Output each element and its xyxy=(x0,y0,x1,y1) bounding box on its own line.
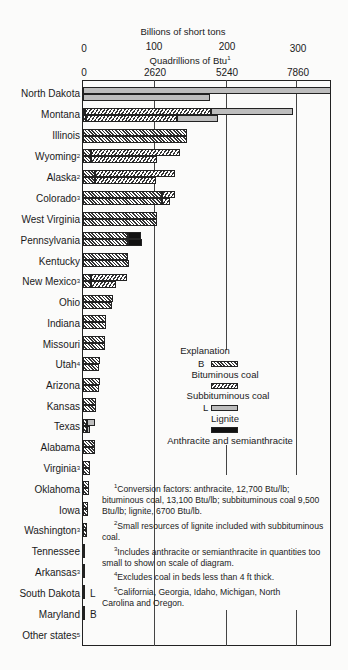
bar-bituminous-tons xyxy=(83,336,105,343)
bar-bituminous-btu xyxy=(83,239,128,246)
bar-bituminous-btu xyxy=(83,322,106,329)
bar-bituminous-tons xyxy=(83,523,87,530)
bar-bituminous-btu xyxy=(83,177,95,184)
bar-bituminous-btu xyxy=(83,281,91,288)
bar-subbituminous-tons xyxy=(91,149,180,156)
bar-subbituminous-btu xyxy=(86,115,178,122)
footnote-4: 4Excludes coal in beds less than 4 ft th… xyxy=(102,569,330,583)
bar-subbituminous-tons xyxy=(95,170,175,177)
state-label: Montana xyxy=(41,109,80,121)
state-label: Ohio xyxy=(59,297,80,309)
bar-subbituminous-btu xyxy=(162,198,170,205)
bar-lignite-btu xyxy=(87,426,91,433)
bottom-tick: 5240 xyxy=(216,67,238,78)
bar-bituminous-btu xyxy=(83,260,129,267)
legend-title: Explanation xyxy=(180,345,230,356)
bar-bituminous-btu xyxy=(83,343,105,350)
bar-bituminous-btu xyxy=(83,468,90,475)
legend-swatch-lignite xyxy=(211,405,238,411)
state-label: Texas xyxy=(54,421,80,433)
bottom-axis-title: Quadrillions of Btu1 xyxy=(150,55,231,66)
bar-subbituminous-tons xyxy=(85,108,211,115)
bar-lignite-tons xyxy=(87,419,95,426)
bar-bituminous-tons xyxy=(83,212,157,219)
state-label: Alaska2 xyxy=(47,172,80,184)
bar-bituminous-tons xyxy=(83,129,187,136)
legend-swatch-subbituminous xyxy=(211,383,238,389)
state-label: Missouri xyxy=(43,339,80,351)
bar-bituminous-btu xyxy=(83,302,112,309)
bar-bituminous-tons xyxy=(83,606,85,613)
bar-bituminous-btu xyxy=(83,530,87,537)
bar-bituminous-tons xyxy=(83,357,100,364)
bar-bituminous-tons xyxy=(83,481,89,488)
bar-bituminous-tons xyxy=(83,253,128,260)
bar-bituminous-tons xyxy=(83,315,106,322)
state-label: Wyoming2 xyxy=(35,151,80,163)
bar-bituminous-btu xyxy=(83,136,187,143)
bottom-tick: 7860 xyxy=(287,67,309,78)
gridline xyxy=(296,610,297,646)
bar-anthracite-btu xyxy=(128,239,141,246)
state-label: Iowa xyxy=(59,505,80,517)
footnote-5: 5California, Georgia, Idaho, Michigan, N… xyxy=(102,584,302,609)
state-label: Kansas xyxy=(47,401,80,413)
top-tick: 100 xyxy=(146,41,163,52)
bar-bituminous-tons xyxy=(83,398,96,405)
gridline xyxy=(226,445,227,475)
bar-bituminous-btu xyxy=(83,385,99,392)
bar-bituminous-btu xyxy=(83,613,85,620)
bar-lignite-btu xyxy=(83,592,85,599)
gridline xyxy=(226,80,227,350)
bar-subbituminous-btu xyxy=(91,156,158,163)
bar-lignite-tons xyxy=(83,585,85,592)
legend-prefix-b: B xyxy=(198,358,204,369)
bar-bituminous-btu xyxy=(83,405,96,412)
bar-bituminous-tons xyxy=(83,461,90,468)
bar-bituminous-btu xyxy=(83,364,99,371)
state-label: Arizona xyxy=(46,380,80,392)
bar-lignite-btu xyxy=(83,94,210,101)
bar-lignite-tons xyxy=(83,87,331,94)
state-label: Other states5 xyxy=(22,630,80,642)
bar-bituminous-tons xyxy=(83,564,85,571)
footnote-1: 1Conversion factors: anthracite, 12,700 … xyxy=(102,481,330,517)
top-tick: 200 xyxy=(219,41,236,52)
gridline xyxy=(226,610,227,646)
state-label: Alabama xyxy=(41,442,80,454)
legend-label-bituminous: Bituminous coal xyxy=(191,369,258,380)
state-label: Maryland xyxy=(39,609,80,621)
state-label: Illinois xyxy=(52,130,80,142)
bar-subbituminous-tons xyxy=(91,274,127,281)
bar-bituminous-tons xyxy=(83,170,95,177)
legend-swatch-anthracite xyxy=(211,427,238,433)
state-label: Arkansas3 xyxy=(35,567,80,579)
state-label: West Virginia xyxy=(21,214,80,226)
bottom-axis-title-text: Quadrillions of Btu xyxy=(150,55,228,66)
bar-bituminous-btu xyxy=(83,488,89,495)
top-tick: 0 xyxy=(81,43,87,54)
bottom-tick: 2620 xyxy=(144,67,166,78)
gridline xyxy=(296,80,297,475)
state-label: Washington3 xyxy=(24,525,80,537)
footnote-2: 2Small resources of lignite included wit… xyxy=(102,518,330,543)
bar-bituminous-btu xyxy=(83,219,157,226)
bar-bituminous-btu xyxy=(83,198,162,205)
state-label: Colorado3 xyxy=(36,193,80,205)
state-label: South Dakota xyxy=(19,588,80,600)
bar-lignite-tons xyxy=(211,108,293,115)
bar-bituminous-btu xyxy=(83,509,88,516)
bar-anthracite-tons xyxy=(128,232,141,239)
top-tick: 300 xyxy=(290,43,307,54)
bar-bituminous-tons xyxy=(83,149,91,156)
bar-subbituminous-btu xyxy=(91,281,116,288)
bar-lignite-btu xyxy=(177,115,217,122)
legend-label-lignite: Lignite xyxy=(211,413,239,424)
bar-bituminous-tons xyxy=(83,378,100,385)
legend-prefix-l: L xyxy=(203,402,208,413)
bottom-tick: 0 xyxy=(81,67,87,78)
bar-bituminous-tons xyxy=(83,502,88,509)
bar-bituminous-tons xyxy=(83,440,95,447)
state-label: Utah4 xyxy=(56,359,80,371)
legend-label-anthracite: Anthracite and semianthracite xyxy=(167,435,293,446)
